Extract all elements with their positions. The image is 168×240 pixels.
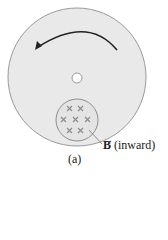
center-hole	[72, 73, 82, 83]
field-label: B→ (inward)	[103, 138, 155, 153]
vector-arrow-icon: →	[104, 135, 113, 145]
field-direction: (inward)	[114, 138, 155, 152]
figure-label: (a)	[68, 152, 81, 167]
